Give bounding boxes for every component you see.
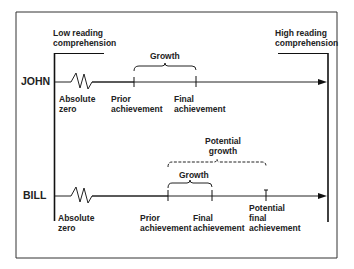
bill-zigzag-break — [55, 187, 168, 203]
john-growth-label: Growth — [150, 51, 180, 61]
bill-name-label: BILL — [23, 189, 46, 201]
john-prior-line2: achievement — [111, 104, 163, 114]
john-growth-brace — [134, 63, 196, 71]
bill-potential-final-line1: Potential — [249, 203, 301, 213]
bill-potential-final-line2: final — [249, 213, 301, 223]
bill-growth-brace — [168, 180, 212, 188]
bill-growth-label: Growth — [179, 170, 209, 180]
bill-potential-growth-brace — [168, 159, 266, 167]
john-zigzag-break — [55, 73, 134, 89]
bill-potential-growth-line2: growth — [205, 146, 241, 156]
low-reading-line1: Low reading — [53, 28, 116, 38]
bill-prior-line1: Prior — [140, 213, 192, 223]
bill-final-label: Final achievement — [193, 213, 245, 233]
john-prior-line1: Prior — [111, 94, 163, 104]
bill-potential-final-line3: achievement — [249, 223, 301, 233]
john-name-label: JOHN — [21, 75, 50, 87]
bill-arrowhead — [318, 193, 327, 199]
bill-absolute-zero-line2: zero — [58, 223, 94, 233]
high-reading-label: High reading comprehension — [275, 28, 338, 48]
bill-potential-growth-line1: Potential — [205, 136, 241, 146]
bill-absolute-zero-label: Absolute zero — [58, 213, 94, 233]
john-absolute-zero-line2: zero — [59, 104, 95, 114]
bill-prior-label: Prior achievement — [140, 213, 192, 233]
bill-final-line1: Final — [193, 213, 245, 223]
low-reading-label: Low reading comprehension — [53, 28, 116, 48]
bill-prior-line2: achievement — [140, 223, 192, 233]
outer-frame-bottom — [16, 128, 337, 258]
bill-final-line2: achievement — [193, 223, 245, 233]
john-scale-line — [55, 63, 327, 89]
john-absolute-zero-label: Absolute zero — [59, 94, 95, 114]
bill-potential-final-label: Potential final achievement — [249, 203, 301, 233]
low-reading-line2: comprehension — [53, 38, 116, 48]
john-absolute-zero-line1: Absolute — [59, 94, 95, 104]
john-final-line2: achievement — [174, 104, 226, 114]
bill-scale-line — [55, 159, 327, 203]
john-final-line1: Final — [174, 94, 226, 104]
high-reading-line1: High reading — [275, 28, 338, 38]
john-final-label: Final achievement — [174, 94, 226, 114]
high-reading-line2: comprehension — [275, 38, 338, 48]
bill-potential-growth-label: Potential growth — [205, 136, 241, 156]
john-prior-label: Prior achievement — [111, 94, 163, 114]
john-arrowhead — [318, 79, 327, 85]
bill-absolute-zero-line1: Absolute — [58, 213, 94, 223]
